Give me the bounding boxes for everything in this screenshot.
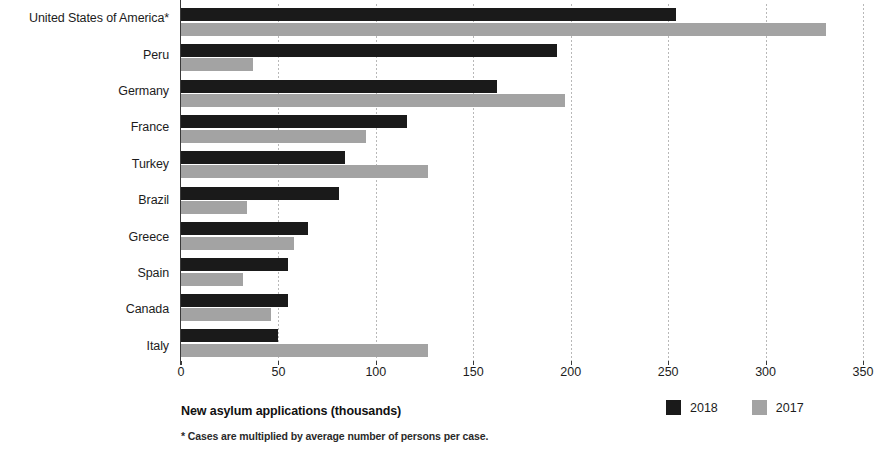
bar-group [181,147,863,183]
bar-2017 [181,344,428,357]
bar-2017 [181,308,271,321]
chart-page: United States of America*PeruGermanyFran… [0,0,878,459]
category-label: Greece [0,218,176,254]
x-tick-label: 350 [853,365,874,379]
bar-2018 [181,258,288,271]
legend-swatch-icon [666,400,681,415]
legend-label: 2018 [690,401,718,415]
bar-group [181,218,863,254]
bar-chart: United States of America*PeruGermanyFran… [0,0,878,390]
legend-item-2017[interactable]: 2017 [752,400,804,415]
bar-2018 [181,329,278,342]
chart-legend: 20182017 [666,400,804,415]
bar-series-container [181,4,863,361]
chart-footnote: * Cases are multiplied by average number… [181,430,488,442]
category-label: Italy [0,328,176,364]
bar-2018 [181,8,676,21]
x-tick-label: 0 [178,365,185,379]
x-tick-label: 300 [755,365,776,379]
x-axis-title: New asylum applications (thousands) [181,404,401,418]
category-label: Brazil [0,182,176,218]
x-tick-label: 250 [658,365,679,379]
category-label: United States of America* [0,0,176,36]
bar-2018 [181,80,497,93]
bar-2018 [181,115,407,128]
category-label: Canada [0,291,176,327]
bar-group [181,40,863,76]
bar-2018 [181,187,339,200]
plot-area [181,4,863,361]
bar-group [181,75,863,111]
x-tick-label: 50 [271,365,285,379]
category-label: Germany [0,73,176,109]
bar-2017 [181,23,826,36]
bar-2018 [181,222,308,235]
legend-swatch-icon [752,400,767,415]
category-label: Peru [0,36,176,72]
bar-group [181,183,863,219]
x-axis-tick-labels: 050100150200250300350 [181,362,863,384]
chart-footer: New asylum applications (thousands) * Ca… [0,390,878,459]
bar-2018 [181,44,557,57]
bar-2017 [181,237,294,250]
legend-item-2018[interactable]: 2018 [666,400,718,415]
x-tick-label: 200 [560,365,581,379]
category-axis-labels: United States of America*PeruGermanyFran… [0,0,176,364]
bar-2017 [181,201,247,214]
bar-group [181,111,863,147]
x-tick-label: 150 [463,365,484,379]
bar-group [181,254,863,290]
bar-2017 [181,94,565,107]
bar-2018 [181,294,288,307]
bar-2017 [181,273,243,286]
bar-2018 [181,151,345,164]
bar-group [181,290,863,326]
bar-group [181,325,863,361]
category-label: France [0,109,176,145]
bar-2017 [181,58,253,71]
gridline [863,4,864,361]
category-label: Turkey [0,146,176,182]
bar-2017 [181,130,366,143]
x-tick-label: 100 [365,365,386,379]
category-label: Spain [0,255,176,291]
bar-2017 [181,165,428,178]
bar-group [181,4,863,40]
legend-label: 2017 [776,401,804,415]
